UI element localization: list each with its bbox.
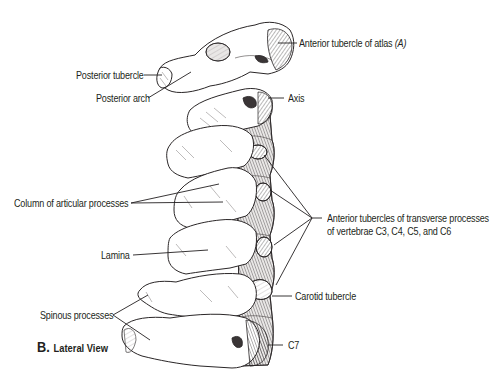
figure-caption: B. Lateral View bbox=[37, 338, 108, 356]
label-anterior-tubercle-atlas: Anterior tubercle of atlas (A) bbox=[299, 37, 406, 49]
label-spinous-processes: Spinous processes bbox=[40, 309, 113, 321]
atlas-vertebra bbox=[157, 22, 294, 92]
label-posterior-arch: Posterior arch bbox=[96, 92, 150, 104]
label-c7: C7 bbox=[288, 339, 299, 351]
leader-transverse-c6 bbox=[276, 218, 312, 285]
label-anterior-tubercles-transverse-line2: of vertebrae C3, C4, C5, and C6 bbox=[327, 225, 451, 237]
leader-transverse-c4 bbox=[270, 190, 312, 218]
label-column-articular-processes: Column of articular processes bbox=[14, 197, 128, 209]
leader-spinous-1 bbox=[113, 295, 148, 315]
label-anterior-tubercles-transverse-line1: Anterior tubercles of transverse process… bbox=[327, 212, 489, 224]
label-lamina: Lamina bbox=[101, 249, 130, 261]
anatomy-figure: Anterior tubercle of atlas (A) Posterior… bbox=[0, 0, 499, 373]
figure-reference: (A) bbox=[395, 37, 407, 49]
caption-letter: B. bbox=[37, 338, 50, 355]
leader-transverse-c5 bbox=[274, 218, 312, 245]
label-posterior-tubercle: Posterior tubercle bbox=[76, 69, 144, 81]
vertebra-c7 bbox=[122, 314, 268, 368]
vertebra-c6 bbox=[138, 273, 256, 318]
label-text: Anterior tubercle of atlas bbox=[299, 37, 392, 49]
caption-view-title: Lateral View bbox=[54, 342, 108, 354]
label-axis: Axis bbox=[288, 92, 304, 104]
label-carotid-tubercle: Carotid tubercle bbox=[295, 290, 356, 302]
